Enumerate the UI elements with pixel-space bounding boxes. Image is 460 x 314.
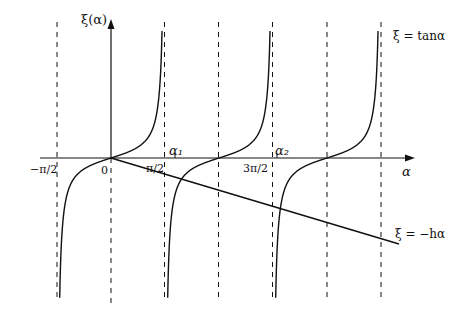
tick-label-zero: 0 [101,164,108,177]
y-axis-label: ξ(α) [81,12,107,27]
tick-label-neg-pi-half: −π/2 [30,163,57,176]
root-label-alpha1: α₁ [169,143,183,158]
tick-label-3pi-half: 3π/2 [243,162,268,175]
x-axis-arrow-icon [405,155,415,162]
y-axis-arrow-icon [108,19,115,29]
x-axis-label: α [402,164,411,179]
asymptote-lines [57,22,381,303]
tick-label-pi-half: π/2 [146,162,164,175]
tan-curve-label: ξ = tanα [393,29,445,43]
line-label: ξ = −hα [395,227,445,241]
labels: ξ(α) α ξ = tanα ξ = −hα −π/2 0 π/2 3π/2 … [30,12,445,241]
transcendental-equation-diagram: ξ(α) α ξ = tanα ξ = −hα −π/2 0 π/2 3π/2 … [0,0,460,314]
axes [40,19,415,162]
